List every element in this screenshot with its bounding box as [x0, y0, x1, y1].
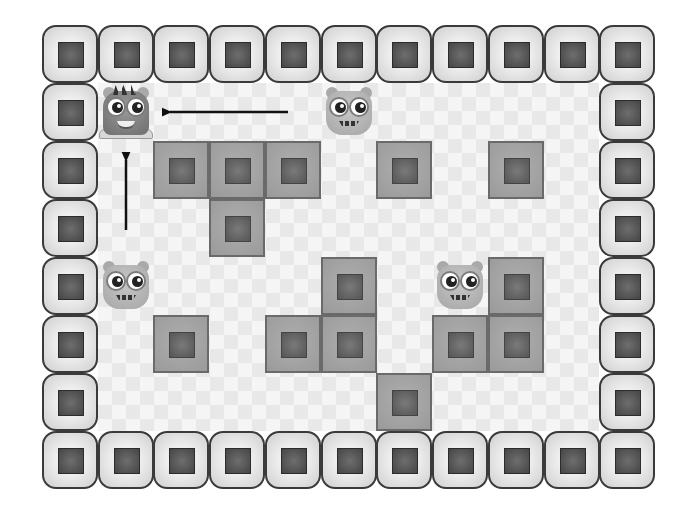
- wall-core: [504, 448, 530, 474]
- stone-block: [209, 141, 265, 199]
- stone-block: [376, 373, 432, 431]
- wall-tile: [42, 315, 98, 373]
- block-core: [504, 274, 530, 300]
- wall-core: [615, 42, 641, 68]
- wall-core: [114, 42, 140, 68]
- wall-core: [615, 100, 641, 126]
- monster-icon[interactable]: [322, 85, 376, 139]
- wall-core: [58, 332, 84, 358]
- wall-core: [225, 448, 251, 474]
- block-core: [337, 274, 363, 300]
- stone-block: [153, 315, 209, 373]
- wall-core: [58, 100, 84, 126]
- block-core: [281, 332, 307, 358]
- wall-tile: [265, 431, 321, 489]
- wall-tile: [42, 257, 98, 315]
- block-core: [392, 158, 418, 184]
- wall-core: [392, 448, 418, 474]
- block-core: [504, 158, 530, 184]
- wall-core: [58, 448, 84, 474]
- monster-mouth: [116, 295, 136, 300]
- block-core: [448, 332, 474, 358]
- wall-tile: [321, 25, 377, 83]
- wall-tile: [544, 431, 600, 489]
- wall-core: [169, 448, 195, 474]
- wall-tile: [209, 431, 265, 489]
- monster-mouth: [339, 121, 359, 126]
- wall-core: [114, 448, 140, 474]
- wall-core: [225, 42, 251, 68]
- wall-tile: [321, 431, 377, 489]
- wall-tile: [98, 25, 154, 83]
- wall-tile: [42, 141, 98, 199]
- stone-block: [265, 141, 321, 199]
- block-core: [504, 332, 530, 358]
- stone-block: [488, 315, 544, 373]
- wall-core: [337, 448, 363, 474]
- stone-block: [321, 315, 377, 373]
- wall-core: [615, 332, 641, 358]
- wall-tile: [376, 25, 432, 83]
- monster-eye: [126, 97, 146, 117]
- block-core: [281, 158, 307, 184]
- monster-mouth: [450, 295, 470, 300]
- wall-tile: [42, 373, 98, 431]
- wall-core: [281, 42, 307, 68]
- stone-block: [488, 141, 544, 199]
- player-monster-icon[interactable]: [99, 85, 153, 139]
- block-core: [169, 158, 195, 184]
- wall-tile: [376, 431, 432, 489]
- monster-eye: [440, 271, 460, 291]
- monster-eye: [126, 271, 146, 291]
- stone-block: [321, 257, 377, 315]
- wall-tile: [599, 373, 655, 431]
- block-core: [169, 332, 195, 358]
- game-board: [42, 25, 655, 489]
- monster-eye: [106, 97, 126, 117]
- wall-core: [615, 274, 641, 300]
- stone-block: [153, 141, 209, 199]
- wall-tile: [42, 25, 98, 83]
- monster-icon[interactable]: [433, 259, 487, 313]
- wall-core: [58, 216, 84, 242]
- wall-core: [615, 448, 641, 474]
- wall-core: [392, 42, 418, 68]
- wall-tile: [599, 83, 655, 141]
- wall-core: [615, 158, 641, 184]
- monster-eye: [349, 97, 369, 117]
- wall-tile: [488, 25, 544, 83]
- monster-eye: [106, 271, 126, 291]
- stone-block: [488, 257, 544, 315]
- block-core: [392, 390, 418, 416]
- wall-core: [615, 390, 641, 416]
- wall-tile: [432, 431, 488, 489]
- wall-tile: [42, 431, 98, 489]
- wall-tile: [599, 431, 655, 489]
- wall-core: [615, 216, 641, 242]
- monster-eye: [329, 97, 349, 117]
- wall-tile: [599, 315, 655, 373]
- wall-core: [281, 448, 307, 474]
- monster-icon[interactable]: [99, 259, 153, 313]
- wall-tile: [98, 431, 154, 489]
- wall-tile: [432, 25, 488, 83]
- wall-core: [337, 42, 363, 68]
- wall-core: [58, 42, 84, 68]
- wall-core: [560, 448, 586, 474]
- stone-block: [432, 315, 488, 373]
- wall-tile: [544, 25, 600, 83]
- monster-eye: [460, 271, 480, 291]
- wall-tile: [265, 25, 321, 83]
- stone-block: [376, 141, 432, 199]
- wall-core: [58, 390, 84, 416]
- stone-block: [209, 199, 265, 257]
- wall-tile: [488, 431, 544, 489]
- wall-core: [58, 158, 84, 184]
- wall-tile: [599, 141, 655, 199]
- wall-core: [560, 42, 586, 68]
- wall-tile: [153, 25, 209, 83]
- wall-tile: [42, 199, 98, 257]
- block-core: [225, 158, 251, 184]
- block-core: [337, 332, 363, 358]
- block-core: [225, 216, 251, 242]
